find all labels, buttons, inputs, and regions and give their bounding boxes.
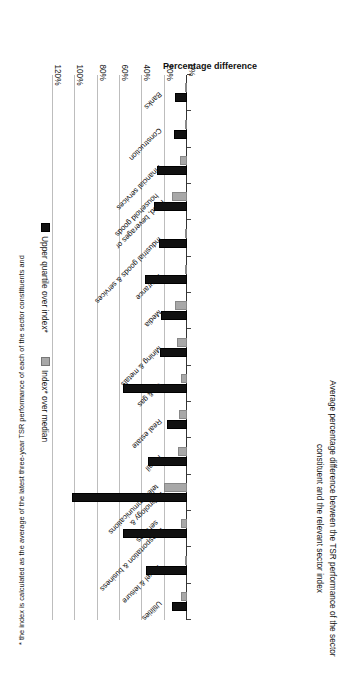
bar-index-over-median (178, 447, 187, 456)
bar-group (42, 584, 187, 620)
axis-tick (187, 619, 191, 620)
axis-tick (187, 292, 191, 293)
bar-index-over-median (180, 156, 187, 165)
axis-tick (187, 401, 191, 402)
legend-swatch-icon (41, 357, 50, 366)
bar-upper-quartile-over-index (161, 311, 187, 320)
axis-tick (187, 110, 191, 111)
bar-index-over-median (185, 120, 187, 129)
bar-index-over-median (179, 410, 187, 419)
bar-group (42, 293, 187, 329)
tick-label: 120% (53, 65, 62, 86)
bar-group (42, 148, 187, 184)
legend-label: Index* over median (40, 370, 50, 442)
axis-tick (187, 474, 191, 475)
bar-group (42, 402, 187, 438)
axis-tick (187, 546, 191, 547)
bar-group (42, 438, 187, 474)
axis-tick (187, 365, 191, 366)
bar-group (42, 329, 187, 365)
tick-label: 60% (120, 65, 129, 81)
value-axis-title: Percentage difference (163, 61, 257, 71)
tick-label: 80% (97, 65, 106, 81)
bar-index-over-median (181, 592, 187, 601)
axis-tick (187, 147, 191, 148)
page-title: Average percentage difference between th… (314, 369, 339, 669)
footnote: * the index is calculated as the average… (17, 25, 26, 645)
bar-upper-quartile-over-index (160, 348, 187, 357)
bar-index-over-median (164, 483, 187, 492)
legend-label: Upper quartile over index* (40, 236, 50, 333)
bar-index-over-median (185, 265, 187, 274)
bar-index-over-median (185, 556, 187, 565)
bar-upper-quartile-over-index (167, 420, 187, 429)
bar-index-over-median (181, 374, 187, 383)
chart-figure: Average percentage difference between th… (0, 0, 352, 675)
bar-index-over-median (177, 338, 187, 347)
bar-group (42, 366, 187, 402)
legend-swatch-icon (41, 223, 50, 232)
bar-group (42, 111, 187, 147)
bar-upper-quartile-over-index (173, 602, 188, 611)
axis-tick (187, 328, 191, 329)
axis-tick (187, 256, 191, 257)
legend-item: Upper quartile over index* (40, 223, 50, 333)
bar-index-over-median (185, 229, 187, 238)
bar-index-over-median (185, 83, 187, 92)
bar-index-over-median (173, 192, 188, 201)
tick-label: 40% (142, 65, 151, 81)
legend-item: Index* over median (40, 357, 50, 442)
tick-label: 100% (75, 65, 84, 86)
bar-upper-quartile-over-index (72, 493, 187, 502)
axis-tick (187, 437, 191, 438)
axis-tick (187, 510, 191, 511)
bar-upper-quartile-over-index (174, 130, 187, 139)
axis-tick (187, 183, 191, 184)
axis-tick (187, 219, 191, 220)
bar-index-over-median (175, 301, 187, 310)
axis-tick (187, 583, 191, 584)
bar-upper-quartile-over-index (175, 93, 187, 102)
bar-index-over-median (181, 519, 187, 528)
